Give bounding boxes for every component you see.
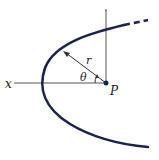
axis-label-x: x [5, 77, 12, 91]
parabola-dashed-extension [124, 20, 148, 25]
angle-label-theta: θ [80, 71, 87, 84]
polar-parabola-diagram: x r θ P [0, 0, 159, 160]
radius-arrowhead-icon [63, 51, 70, 57]
point-p-dot [104, 81, 109, 86]
point-label-p: P [109, 84, 119, 98]
parabola-curve [42, 25, 148, 147]
radius-label-r: r [86, 54, 92, 67]
